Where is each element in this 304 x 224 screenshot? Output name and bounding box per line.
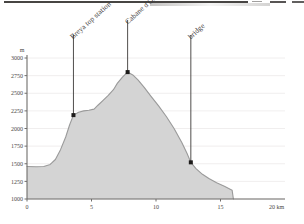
x-axis-unit-label: 20 km xyxy=(269,204,285,210)
chart-plot-area: 100012501500175020002250250027503000 051… xyxy=(0,0,304,224)
x-axis-tick: 0 xyxy=(26,204,29,210)
profile-area-fill xyxy=(27,72,233,199)
y-axis-tick: 2250 xyxy=(11,108,23,114)
y-axis-tick: 2750 xyxy=(11,73,23,79)
y-axis-tick: 2000 xyxy=(11,126,23,132)
y-axis-tick: 1500 xyxy=(11,161,23,167)
x-axis-tick: 15 xyxy=(218,204,224,210)
y-axis-tick-labels: 100012501500175020002250250027503000 xyxy=(11,55,27,202)
y-axis-tick: 1000 xyxy=(11,196,23,202)
y-axis-tick: 3000 xyxy=(11,55,23,61)
elevation-profile-figure: 100012501500175020002250250027503000 051… xyxy=(0,0,304,224)
annotation-marker xyxy=(126,70,130,74)
annotation-marker xyxy=(189,160,193,164)
y-axis-tick: 2500 xyxy=(11,90,23,96)
elevation-chart-svg: 100012501500175020002250250027503000 051… xyxy=(0,0,304,224)
annotation-marker xyxy=(71,113,75,117)
y-axis-tick: 1250 xyxy=(11,179,23,185)
y-axis-tick: 1750 xyxy=(11,143,23,149)
x-axis-tick-labels: 051015 xyxy=(26,199,224,210)
x-axis-tick: 10 xyxy=(153,204,159,210)
y-axis-unit-label: m xyxy=(20,47,25,53)
x-axis-tick: 5 xyxy=(90,204,93,210)
